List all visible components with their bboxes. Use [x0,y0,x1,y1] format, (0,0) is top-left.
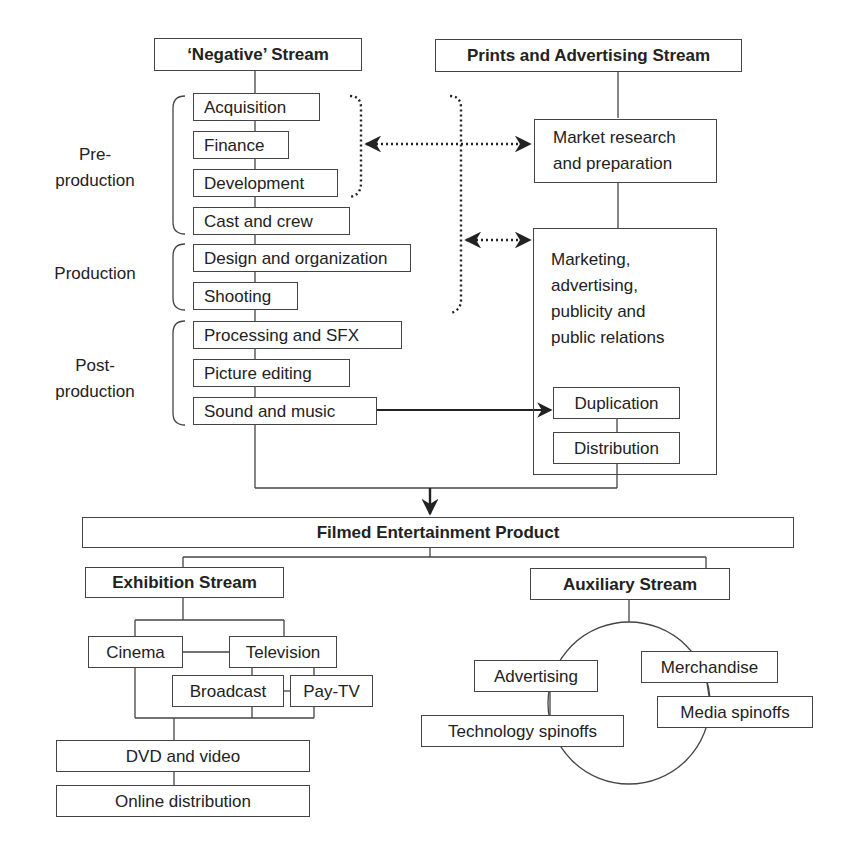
step-label: Processing and SFX [204,327,359,344]
step-cast-and-crew: Cast and crew [193,207,350,235]
step-label: Design and organization [204,250,387,267]
step-label: Finance [204,137,264,154]
dvd-and-video-box: DVD and video [56,740,310,772]
market-research-box: Market research and preparation [534,119,717,183]
development-dotted-bracket [350,96,361,197]
pay-tv-label: Pay-TV [303,683,360,700]
postproduction-label: Post- production [40,353,150,405]
media-spinoffs-box: Media spinoffs [657,696,813,728]
cinema-box: Cinema [88,636,183,668]
step-picture-editing: Picture editing [193,359,350,387]
dvd-label: DVD and video [126,748,240,765]
exhibition-stream-label: Exhibition Stream [112,574,257,591]
broadcast-label: Broadcast [190,683,267,700]
media-spinoffs-label: Media spinoffs [680,704,789,721]
step-label: Shooting [204,288,271,305]
distribution-box: Distribution [553,432,680,464]
negative-stream-header: ‘Negative’ Stream [154,38,362,71]
duplication-box: Duplication [553,387,680,419]
pay-tv-box: Pay-TV [290,675,373,707]
television-box: Television [229,636,337,668]
prints-advertising-stream-header: Prints and Advertising Stream [435,39,742,72]
online-distribution-box: Online distribution [56,785,310,817]
step-finance: Finance [193,131,289,159]
auxiliary-stream-header: Auxiliary Stream [530,568,730,600]
step-label: Sound and music [204,403,335,420]
marketing-label: Marketing, advertising, publicity and pu… [551,247,664,351]
merchandise-label: Merchandise [661,659,758,676]
market-research-label: Market research and preparation [553,125,676,177]
exhibition-stream-header: Exhibition Stream [85,567,284,598]
merchandise-box: Merchandise [641,651,778,683]
step-label: Cast and crew [204,213,313,230]
step-sound-and-music: Sound and music [193,397,377,425]
technology-spinoffs-box: Technology spinoffs [421,715,624,747]
duplication-label: Duplication [574,395,658,412]
negative-stream-label: ‘Negative’ Stream [187,46,329,63]
online-label: Online distribution [115,793,251,810]
distribution-label: Distribution [574,440,659,457]
preproduction-bracket [173,96,185,234]
broadcast-box: Broadcast [172,675,284,707]
step-acquisition: Acquisition [193,93,320,121]
step-label: Picture editing [204,365,312,382]
step-label: Acquisition [204,99,286,116]
production-dotted-bracket [450,96,461,313]
product-label: Filmed Entertainment Product [317,524,560,541]
production-bracket [173,244,185,310]
television-label: Television [246,644,321,661]
auxiliary-stream-label: Auxiliary Stream [563,576,697,593]
advertising-box: Advertising [474,660,598,692]
filmed-entertainment-product-box: Filmed Entertainment Product [82,517,794,548]
postproduction-bracket [173,321,185,425]
step-shooting: Shooting [193,282,298,310]
technology-spinoffs-label: Technology spinoffs [448,723,597,740]
step-design-and-organization: Design and organization [193,244,411,272]
preproduction-label: Pre- production [40,142,150,194]
cinema-label: Cinema [106,644,165,661]
prints-advertising-stream-label: Prints and Advertising Stream [467,47,710,64]
step-processing-and-sfx: Processing and SFX [193,321,402,349]
step-development: Development [193,169,338,197]
step-label: Development [204,175,304,192]
production-label: Production [40,261,150,287]
advertising-label: Advertising [494,668,578,685]
